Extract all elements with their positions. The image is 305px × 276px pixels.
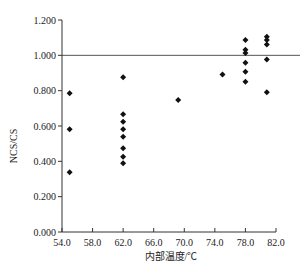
data-point	[242, 69, 248, 75]
y-tick-label: 1.000	[34, 50, 57, 61]
x-tick-label: 66.0	[145, 237, 163, 248]
x-tick-label: 82.0	[267, 237, 285, 248]
data-point	[120, 126, 126, 132]
scatter-chart: 0.0000.2000.4000.6000.8001.0001.200 54.0…	[0, 0, 305, 276]
y-tick-label: 0.400	[34, 156, 57, 167]
data-point	[67, 90, 73, 96]
x-tick-label: 62.0	[114, 237, 132, 248]
y-tick-label: 1.200	[34, 15, 57, 26]
data-point	[120, 111, 126, 117]
x-tick-label: 54.0	[53, 237, 71, 248]
data-point	[120, 154, 126, 160]
data-point	[120, 134, 126, 140]
data-point	[264, 89, 270, 95]
y-tick-label: 0.200	[34, 191, 57, 202]
data-point	[242, 79, 248, 85]
data-point	[67, 169, 73, 175]
x-tick-label: 58.0	[84, 237, 102, 248]
data-point	[264, 41, 270, 47]
y-tick-label: 0.800	[34, 85, 57, 96]
x-tick-label: 78.0	[237, 237, 255, 248]
data-point	[175, 97, 181, 103]
x-axis-title: 内部温度/℃	[145, 250, 198, 262]
y-axis-title: NCS/CS	[8, 129, 19, 163]
y-tick-label: 0.600	[34, 121, 57, 132]
x-tick-label: 70.0	[176, 237, 194, 248]
data-point	[264, 56, 270, 62]
x-tick-label: 74.0	[206, 237, 224, 248]
data-point	[220, 71, 226, 77]
data-point	[120, 74, 126, 80]
data-point	[120, 119, 126, 125]
data-point	[242, 60, 248, 66]
data-point	[120, 145, 126, 151]
data-point	[120, 160, 126, 166]
data-point	[242, 37, 248, 43]
y-tick-label: 0.000	[34, 227, 57, 238]
data-point	[67, 126, 73, 132]
